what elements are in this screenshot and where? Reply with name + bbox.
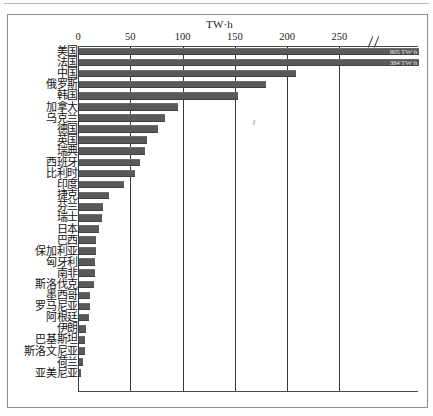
bar-27 <box>79 347 85 355</box>
bar-17 <box>79 236 96 244</box>
category-label-15: 瑞士 <box>57 212 78 223</box>
bar-8 <box>79 136 147 144</box>
bar-13 <box>79 192 109 200</box>
bar-row: 瑞士 <box>0 212 433 223</box>
category-label-27: 斯洛文尼亚 <box>24 346 78 357</box>
category-label-29: 亚美尼亚 <box>35 368 78 379</box>
category-label-4: 韩国 <box>57 90 78 101</box>
bar-6 <box>79 114 165 122</box>
bar-24 <box>79 314 89 322</box>
bar-23 <box>79 303 90 311</box>
x-tick-label-100: 100 <box>175 31 191 42</box>
bar-11 <box>79 170 135 178</box>
bar-rows: 美国805 TW·h法国384 TW·h中国俄罗斯韩国加拿大乌克兰德国英国瑞典西… <box>0 46 433 379</box>
bar-10 <box>79 159 140 167</box>
bar-28 <box>79 358 83 366</box>
bar-25 <box>79 325 86 333</box>
category-label-6: 乌克兰 <box>46 113 78 124</box>
axis-bottom-line <box>78 391 418 392</box>
bar-21 <box>79 281 94 289</box>
bar-row: 巴基斯坦 <box>0 334 433 345</box>
bar-row: 加拿大 <box>0 101 433 112</box>
top-rule <box>4 3 429 4</box>
category-label-5: 加拿大 <box>46 102 78 113</box>
bar-row: 亚美尼亚 <box>0 368 433 379</box>
bar-row: 日本 <box>0 224 433 235</box>
bar-22 <box>79 292 90 300</box>
bar-row: 韩国 <box>0 90 433 101</box>
bar-9 <box>79 147 145 155</box>
bar-16 <box>79 225 99 233</box>
category-label-26: 巴基斯坦 <box>35 334 78 345</box>
bar-5 <box>79 103 178 111</box>
bar-7 <box>79 125 158 133</box>
bar-19 <box>79 258 95 266</box>
x-tick-label-250: 250 <box>331 31 347 42</box>
bar-15 <box>79 214 102 222</box>
bar-2 <box>79 70 296 78</box>
bar-value-label-1: 384 TW·h <box>390 59 417 68</box>
x-tick-label-150: 150 <box>227 31 243 42</box>
bar-20 <box>79 269 95 277</box>
bar-29 <box>79 369 81 377</box>
x-tick-label-50: 50 <box>125 31 136 42</box>
bar-14 <box>79 203 103 211</box>
category-label-16: 日本 <box>57 224 78 235</box>
axis-unit-label: TW·h <box>206 18 233 30</box>
bar-18 <box>79 247 96 255</box>
bar-26 <box>79 336 85 344</box>
bar-value-label-0: 805 TW·h <box>390 48 417 57</box>
figure-canvas: TW·h 050100150200250 美国805 TW·h法国384 TW·… <box>0 0 433 416</box>
x-tick-label-0: 0 <box>75 31 80 42</box>
bar-0: 805 TW·h <box>79 48 419 56</box>
bar-row: 乌克兰 <box>0 113 433 124</box>
x-tick-label-200: 200 <box>279 31 295 42</box>
bar-1: 384 TW·h <box>79 59 419 67</box>
bar-3 <box>79 81 266 89</box>
bar-row: 斯洛文尼亚 <box>0 346 433 357</box>
bar-12 <box>79 181 124 189</box>
category-label-17: 巴西 <box>57 235 78 246</box>
bar-4 <box>79 92 238 100</box>
